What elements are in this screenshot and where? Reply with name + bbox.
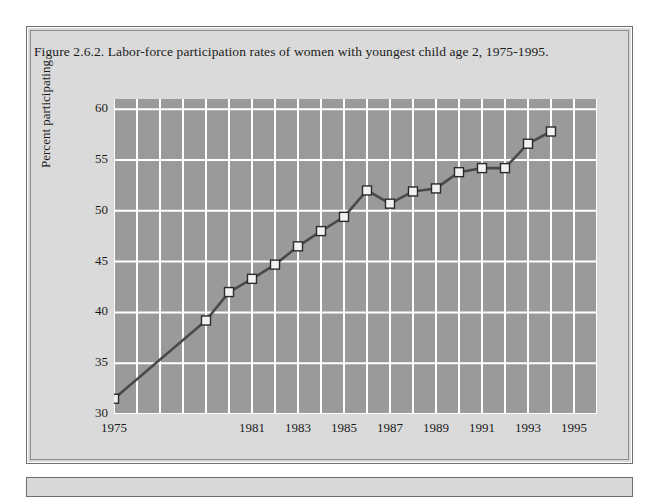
x-axis-ticks: 197519811983198519871989199119931995 <box>114 420 597 440</box>
y-axis-title: Percent participating <box>38 44 54 184</box>
data-point-marker <box>317 227 326 236</box>
x-tick-label: 1983 <box>285 420 311 436</box>
y-tick-label: 60 <box>74 100 108 116</box>
y-tick-label: 55 <box>74 151 108 167</box>
y-tick-label: 40 <box>74 303 108 319</box>
data-point-marker <box>455 168 464 177</box>
next-figure-frame <box>26 477 633 497</box>
data-point-marker <box>225 288 234 297</box>
data-point-marker <box>478 164 487 173</box>
data-point-marker <box>432 184 441 193</box>
y-tick-label: 50 <box>74 202 108 218</box>
data-point-marker <box>547 127 556 136</box>
data-point-marker <box>524 139 533 148</box>
x-tick-label: 1981 <box>239 420 265 436</box>
data-point-marker <box>294 242 303 251</box>
data-point-marker <box>340 212 349 221</box>
x-tick-label: 1987 <box>377 420 403 436</box>
x-tick-label: 1989 <box>423 420 449 436</box>
plot-area <box>114 99 597 414</box>
data-point-marker <box>363 186 372 195</box>
data-point-marker <box>248 274 257 283</box>
y-axis-ticks: 30354045505560 <box>68 99 108 414</box>
x-tick-label: 1991 <box>469 420 495 436</box>
x-tick-label: 1975 <box>101 420 127 436</box>
figure-caption: Figure 2.6.2. Labor-force participation … <box>34 44 594 60</box>
y-tick-label: 30 <box>74 405 108 421</box>
data-point-marker <box>202 316 211 325</box>
x-tick-label: 1995 <box>561 420 587 436</box>
chart-container: Percent participating 30354045505560 197… <box>40 66 620 436</box>
data-point-marker <box>114 394 119 403</box>
data-point-marker <box>271 260 280 269</box>
data-point-marker <box>501 164 510 173</box>
data-point-marker <box>409 187 418 196</box>
line-chart-svg <box>114 99 597 414</box>
y-tick-label: 35 <box>74 354 108 370</box>
x-tick-label: 1993 <box>515 420 541 436</box>
data-point-marker <box>386 199 395 208</box>
x-tick-label: 1985 <box>331 420 357 436</box>
y-tick-label: 45 <box>74 253 108 269</box>
